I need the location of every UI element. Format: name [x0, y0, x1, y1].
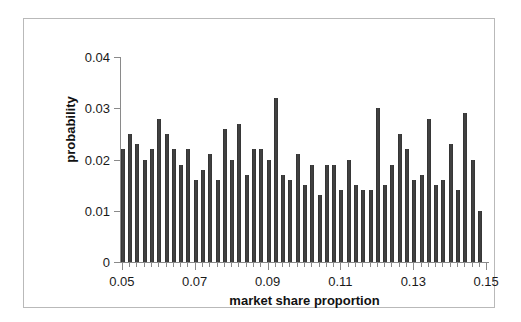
x-tick-mark-minor — [428, 263, 429, 267]
bar — [463, 113, 467, 262]
x-tick-mark-minor — [151, 263, 152, 267]
bar — [427, 119, 431, 263]
bar — [186, 149, 190, 262]
x-tick-mark-minor — [326, 263, 327, 267]
x-tick-mark-minor — [224, 263, 225, 267]
x-tick-mark-minor — [275, 263, 276, 267]
bar — [259, 149, 263, 262]
bar — [216, 180, 220, 262]
bar — [471, 160, 475, 263]
bar — [172, 149, 176, 262]
x-tick-mark-minor — [144, 263, 145, 267]
bar — [412, 180, 416, 262]
bar — [230, 160, 234, 263]
y-tick-label: 0.04 — [85, 51, 110, 64]
x-tick-mark-minor — [166, 263, 167, 267]
x-tick-mark-minor — [187, 263, 188, 267]
x-axis-title: market share proportion — [120, 294, 489, 307]
y-tick-label: 0.03 — [85, 102, 110, 115]
x-tick-label: 0.05 — [109, 275, 134, 288]
x-tick-label: 0.15 — [474, 275, 499, 288]
x-tick-mark-minor — [348, 263, 349, 267]
y-tick-label: 0 — [103, 256, 110, 269]
bar — [150, 149, 154, 262]
bar — [281, 175, 285, 262]
plot-area — [120, 57, 488, 262]
x-tick-mark-minor — [319, 263, 320, 267]
x-tick-mark-major — [122, 263, 123, 270]
x-tick-label: 0.13 — [401, 275, 426, 288]
x-tick-mark-minor — [202, 263, 203, 267]
x-tick-label: 0.11 — [328, 275, 352, 288]
x-tick-mark-minor — [391, 263, 392, 267]
bar — [208, 154, 212, 262]
x-tick-mark-minor — [209, 263, 210, 267]
bar — [449, 144, 453, 262]
x-tick-mark-major — [486, 263, 487, 270]
bar — [390, 165, 394, 262]
bar — [347, 160, 351, 263]
bar — [267, 160, 271, 263]
bar — [456, 190, 460, 262]
figure-canvas: 00.010.020.030.04 0.050.070.090.110.130.… — [0, 0, 521, 322]
bar — [434, 185, 438, 262]
x-tick-mark-minor — [384, 263, 385, 267]
bar — [179, 165, 183, 262]
bar — [288, 180, 292, 262]
x-tick-mark-minor — [399, 263, 400, 267]
bar — [398, 134, 402, 262]
x-tick-mark-major — [340, 263, 341, 270]
bar — [237, 124, 241, 262]
x-tick-mark-minor — [421, 263, 422, 267]
x-tick-mark-minor — [129, 263, 130, 267]
bar — [252, 149, 256, 262]
x-tick-mark-minor — [479, 263, 480, 267]
x-tick-mark-minor — [435, 263, 436, 267]
bar — [369, 190, 373, 262]
x-tick-mark-minor — [311, 263, 312, 267]
x-tick-mark-minor — [158, 263, 159, 267]
bar — [405, 149, 409, 262]
x-tick-mark-minor — [260, 263, 261, 267]
bar — [361, 190, 365, 262]
bar — [245, 175, 249, 262]
bar — [121, 149, 125, 262]
x-tick-mark-minor — [238, 263, 239, 267]
bar — [135, 144, 139, 262]
bar — [332, 165, 336, 262]
x-tick-mark-minor — [136, 263, 137, 267]
x-tick-mark-minor — [464, 263, 465, 267]
x-tick-mark-minor — [362, 263, 363, 267]
bar — [441, 180, 445, 262]
x-tick-mark-minor — [180, 263, 181, 267]
bar — [165, 134, 169, 262]
x-tick-label: 0.07 — [182, 275, 207, 288]
x-tick-mark-minor — [442, 263, 443, 267]
bar — [201, 170, 205, 262]
bar — [296, 154, 300, 262]
x-tick-mark-major — [268, 263, 269, 270]
x-tick-mark-major — [195, 263, 196, 270]
bar — [376, 108, 380, 262]
bar — [318, 195, 322, 262]
y-tick-mark — [114, 262, 120, 263]
x-tick-mark-minor — [246, 263, 247, 267]
bar — [354, 185, 358, 262]
y-axis-tick-labels: 00.010.020.030.04 — [52, 19, 110, 322]
x-tick-mark-minor — [333, 263, 334, 267]
x-tick-mark-minor — [355, 263, 356, 267]
bar — [223, 129, 227, 262]
x-tick-mark-minor — [377, 263, 378, 267]
bar — [339, 190, 343, 262]
bar — [143, 160, 147, 263]
chart-frame: 00.010.020.030.04 0.050.070.090.110.130.… — [23, 18, 495, 308]
y-tick-label: 0.01 — [85, 205, 110, 218]
bar — [157, 119, 161, 263]
x-tick-mark-minor — [253, 263, 254, 267]
x-tick-mark-minor — [217, 263, 218, 267]
bar — [194, 180, 198, 262]
bar — [383, 185, 387, 262]
bar — [420, 175, 424, 262]
bar — [325, 165, 329, 262]
bar — [274, 98, 278, 262]
